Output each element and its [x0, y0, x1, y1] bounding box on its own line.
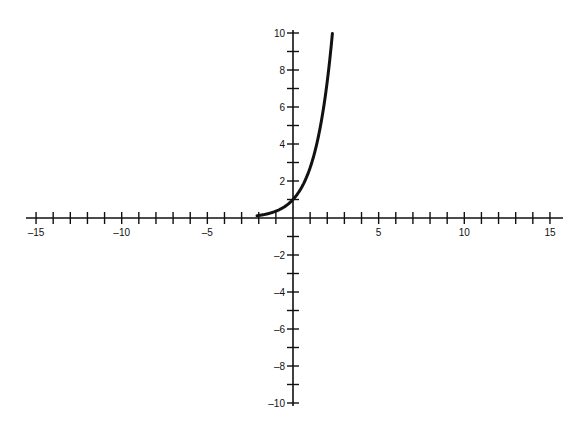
y-tick-label: 4 — [279, 139, 285, 150]
x-tick-label: 5 — [376, 227, 382, 238]
y-tick-label: –6 — [274, 324, 286, 335]
y-tick-label: –4 — [274, 287, 286, 298]
x-tick-label: –10 — [113, 227, 130, 238]
y-tick-label: –8 — [274, 361, 286, 372]
x-tick-label: –5 — [202, 227, 214, 238]
axes — [26, 30, 563, 406]
exponential-function-graph: –15–10–551015108642–2–4–6–8–10 — [0, 0, 588, 443]
x-tick-label: 15 — [544, 227, 556, 238]
x-tick-label: 10 — [459, 227, 471, 238]
y-tick-label: 6 — [279, 102, 285, 113]
y-tick-label: –10 — [268, 398, 285, 409]
y-tick-label: 8 — [279, 65, 285, 76]
x-tick-label: –15 — [28, 227, 45, 238]
exponential-curve — [257, 33, 332, 215]
y-tick-label: –2 — [274, 250, 286, 261]
y-tick-label: 10 — [274, 28, 286, 39]
y-tick-label: 2 — [279, 176, 285, 187]
